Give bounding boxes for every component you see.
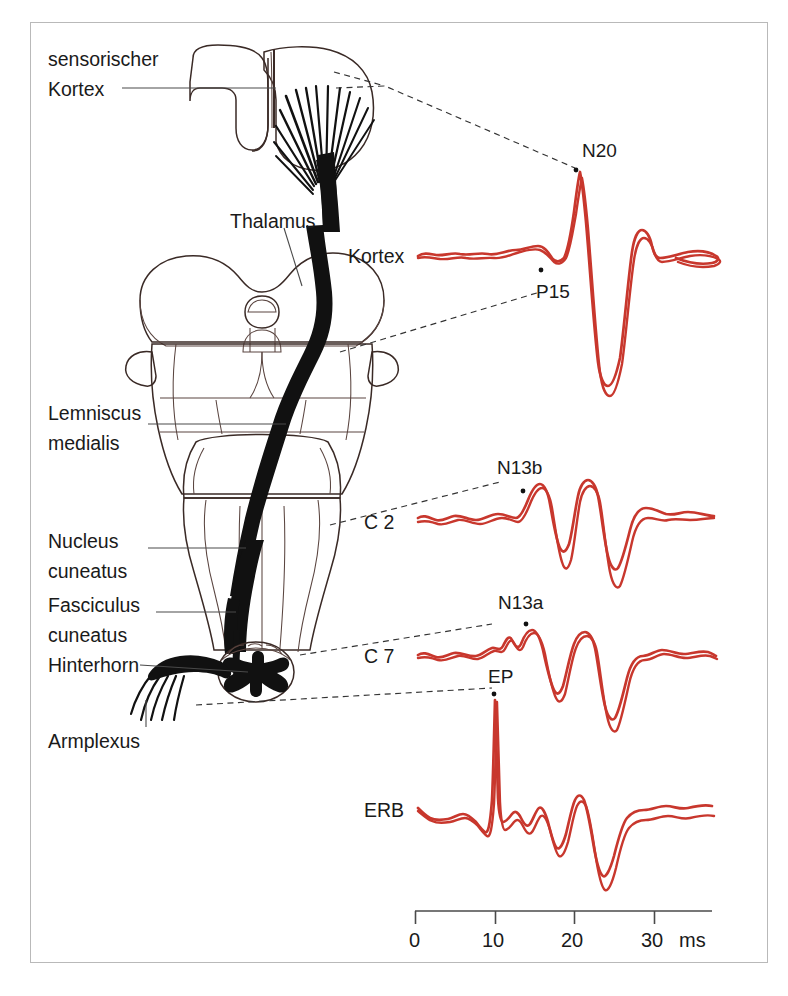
label-leader-lines bbox=[122, 88, 302, 727]
c7-trace-b bbox=[418, 633, 717, 731]
dash-c2 bbox=[330, 482, 500, 525]
label-nucleus-line2: cuneatus bbox=[48, 560, 127, 582]
peak-label-p15: P15 bbox=[536, 281, 570, 302]
dash-thalamus-to-p15 bbox=[340, 292, 540, 352]
label-lemniscus-line2: medialis bbox=[48, 432, 120, 454]
axis-unit-label: ms bbox=[679, 929, 706, 951]
cortex-anatomy bbox=[190, 45, 374, 232]
label-sensorischer-kortex-line1: sensorischer bbox=[48, 48, 159, 70]
peak-label-ep: EP bbox=[488, 666, 513, 687]
dash-cortex-upper bbox=[334, 72, 385, 86]
c7-trace-a bbox=[418, 630, 716, 720]
trace-label-c7: C 7 bbox=[364, 645, 394, 667]
waveform-c2: C 2 N13b bbox=[364, 457, 714, 587]
dash-c7 bbox=[300, 624, 492, 655]
trace-label-kortex: Kortex bbox=[348, 245, 405, 267]
label-fasciculus-line1: Fasciculus bbox=[48, 594, 140, 616]
axis-tick-label-30: 30 bbox=[641, 929, 663, 951]
label-nucleus-line1: Nucleus bbox=[48, 530, 119, 552]
trace-label-erb: ERB bbox=[364, 799, 404, 821]
erb-trace-b bbox=[418, 702, 714, 890]
peak-label-n13a: N13a bbox=[498, 592, 544, 613]
spinal-cord-section bbox=[131, 642, 294, 720]
axis-tick-label-20: 20 bbox=[561, 929, 583, 951]
peak-label-n13b: N13b bbox=[497, 457, 542, 478]
label-fasciculus-line2: cuneatus bbox=[48, 624, 127, 646]
trace-label-c2: C 2 bbox=[364, 511, 394, 533]
waveform-c7: C 7 N13a bbox=[364, 592, 717, 731]
time-axis: 0 10 20 30 ms bbox=[409, 911, 712, 951]
dash-erb bbox=[196, 688, 492, 705]
peak-dot-n13a bbox=[524, 622, 529, 627]
peak-dot-ep bbox=[492, 692, 497, 697]
axis-tick-label-10: 10 bbox=[482, 929, 504, 951]
figure-canvas: sensorischer Kortex Thalamus Lemniscus m… bbox=[0, 0, 788, 996]
peak-dot-n20 bbox=[574, 168, 579, 173]
label-hinterhorn: Hinterhorn bbox=[48, 654, 139, 676]
waveform-erb: ERB EP bbox=[364, 666, 714, 890]
kortex-trace-a bbox=[418, 172, 718, 386]
label-lemniscus-line1: Lemniscus bbox=[48, 402, 141, 424]
axis-tick-label-0: 0 bbox=[409, 929, 420, 951]
brainstem-anatomy bbox=[126, 225, 399, 686]
c2-trace-b bbox=[418, 486, 714, 587]
c2-trace-a bbox=[418, 480, 714, 570]
peak-dot-n13b bbox=[521, 489, 526, 494]
label-sensorischer-kortex-line2: Kortex bbox=[48, 78, 105, 100]
label-thalamus: Thalamus bbox=[230, 210, 316, 232]
label-armplexus: Armplexus bbox=[48, 730, 140, 752]
waveform-kortex: Kortex N20 P15 bbox=[348, 140, 720, 396]
sep-figure: sensorischer Kortex Thalamus Lemniscus m… bbox=[0, 0, 788, 996]
peak-label-n20: N20 bbox=[582, 140, 617, 161]
peak-dot-p15 bbox=[539, 268, 544, 273]
